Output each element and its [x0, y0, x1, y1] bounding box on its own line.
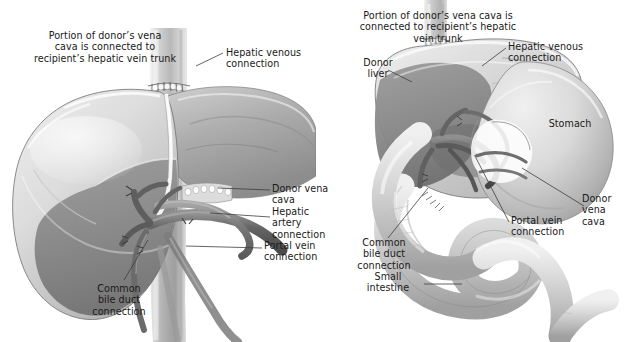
- label-line: connection: [511, 226, 579, 237]
- label-line: intestine: [355, 282, 421, 293]
- label-common-bile-duct-connection-right: Commonbile ductconnection: [347, 237, 421, 271]
- left-panel: Portion of donor’s venacava is connected…: [0, 0, 316, 342]
- label-line: cava is connected to: [14, 41, 196, 52]
- label-donor-liver: Donorliver: [354, 57, 402, 80]
- label-line: Stomach: [543, 118, 597, 129]
- label-line: connected to recipient’s hepatic: [349, 21, 527, 32]
- leader-hepatic-venous-connection: [196, 53, 223, 66]
- label-line: vein trunk: [349, 33, 527, 44]
- label-hepatic-venous-connection-right: Hepatic venousconnection: [508, 41, 600, 64]
- right-panel: Portion of donor’s vena cava isconnected…: [316, 0, 632, 342]
- hilum-suture-row: [182, 183, 232, 203]
- label-line: Small: [355, 271, 421, 282]
- label-line: liver: [354, 68, 402, 79]
- label-line: Portion of donor’s vena: [14, 30, 196, 41]
- label-donor-vena-cava-right: Donorvenacava: [582, 193, 628, 227]
- label-line: Portion of donor’s vena cava is: [349, 10, 527, 21]
- label-line: Common: [347, 237, 421, 248]
- label-line: connection: [347, 260, 421, 271]
- label-line: Portal vein: [511, 215, 579, 226]
- label-portion-vena-cava-left: Portion of donor’s venacava is connected…: [14, 30, 196, 64]
- label-line: bile duct: [347, 248, 421, 259]
- label-line: vena: [582, 204, 628, 215]
- label-line: Hepatic venous: [508, 41, 600, 52]
- label-line: Hepatic venous: [226, 47, 314, 58]
- label-line: Donor: [582, 193, 628, 204]
- label-portal-vein-connection-right: Portal veinconnection: [511, 215, 579, 238]
- label-line: connection: [226, 58, 314, 69]
- label-common-bile-duct-connection-left: Commonbile ductconnection: [82, 283, 156, 317]
- figure-canvas: Portion of donor’s venacava is connected…: [0, 0, 632, 342]
- donor-liver-right-lobe: [166, 87, 316, 198]
- label-line: recipient’s hepatic vein trunk: [14, 53, 196, 64]
- label-portion-vena-cava-right: Portion of donor’s vena cava isconnected…: [349, 10, 527, 44]
- label-line: Donor: [354, 57, 402, 68]
- label-line: connection: [508, 52, 600, 63]
- label-line: connection: [82, 306, 156, 317]
- label-hepatic-venous-connection-left: Hepatic venousconnection: [226, 47, 314, 70]
- label-small-intestine: Smallintestine: [355, 271, 421, 294]
- label-line: bile duct: [82, 294, 156, 305]
- label-stomach: Stomach: [543, 118, 597, 129]
- label-line: Common: [82, 283, 156, 294]
- label-line: cava: [582, 216, 628, 227]
